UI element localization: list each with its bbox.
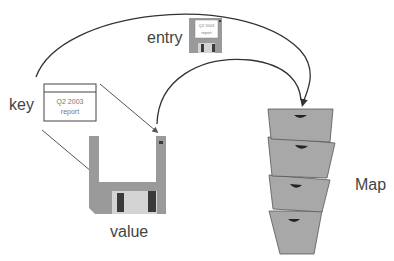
entry-floppy-icon: Q2 2003 report: [189, 18, 222, 53]
map-drawer-1: [268, 109, 333, 142]
map-drawer-3: [269, 175, 330, 212]
map-drawer-2: [268, 137, 335, 178]
key-label: key: [9, 96, 34, 113]
key-value-map-diagram: key Q2 2003 report entry Q2 2003 report …: [0, 0, 394, 261]
value-label: value: [110, 223, 148, 240]
map-drawer-stack: [268, 109, 335, 254]
key-card-line2: report: [61, 108, 79, 116]
entry-label: entry: [147, 29, 183, 46]
key-to-value-arrow-1: [100, 84, 156, 131]
svg-text:Q2 2003: Q2 2003: [199, 23, 215, 28]
key-card: Q2 2003 report: [44, 84, 96, 121]
map-drawer-4: [269, 211, 322, 254]
value-floppy-icon: [89, 136, 166, 214]
map-label: Map: [355, 176, 386, 193]
svg-text:report: report: [201, 30, 212, 35]
key-card-line1: Q2 2003: [57, 98, 84, 106]
